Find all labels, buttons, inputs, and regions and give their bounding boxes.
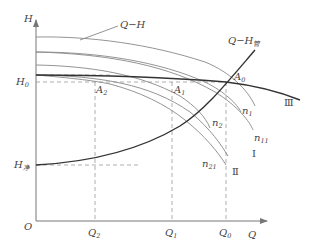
point-a0-label: A0: [233, 71, 245, 84]
curve-I-label: Ⅰ: [252, 148, 256, 159]
curve-III-label: Ⅲ: [284, 97, 294, 108]
q-axis-label: Q: [248, 229, 256, 240]
point-a2-label: A2: [95, 84, 107, 97]
curve-II-label: Ⅱ: [232, 166, 239, 177]
h0-label: H0: [15, 76, 29, 89]
pump-curve-top: [36, 37, 255, 106]
q1-label: Q1: [165, 227, 177, 240]
n21-label: n21: [202, 158, 217, 171]
pump-curve-label: Q−H: [120, 19, 146, 30]
origin-label: O: [24, 221, 32, 232]
pump-curve-curve-II-branch: [36, 75, 226, 165]
pump-operating-point-diagram: H Q O H0 H净 Q2 Q1 Q0 Q−H Q−H管 Ⅲ Ⅰ Ⅱ n1 n…: [0, 0, 310, 246]
n2-label: n2: [212, 117, 223, 130]
system-curve: [36, 50, 255, 165]
qh-leader-line: [80, 26, 118, 40]
q0-label: Q0: [219, 227, 231, 240]
hstatic-label: H净: [13, 159, 30, 172]
h-axis-label: H: [23, 13, 33, 24]
system-curve-label: Q−H管: [228, 35, 261, 48]
n11-label: n11: [254, 132, 269, 145]
q2-label: Q2: [88, 227, 100, 240]
pump-curve-n21: [36, 75, 228, 156]
